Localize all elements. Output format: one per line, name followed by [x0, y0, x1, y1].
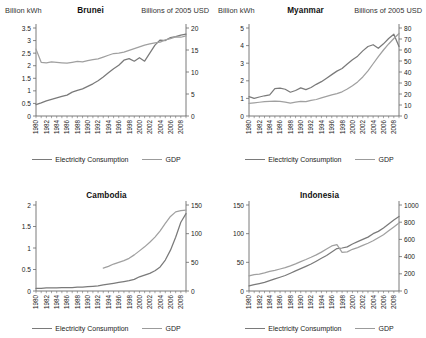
- y-tick-label: 3: [240, 60, 244, 67]
- y-tick-label: 0: [240, 288, 244, 295]
- x-tick-label: 2002: [146, 295, 153, 310]
- legend-line-swatch-icon: [245, 159, 265, 160]
- legend-label: Electricity Consumption: [268, 325, 341, 332]
- legend-line-swatch-icon: [32, 159, 52, 160]
- x-tick-label: 1980: [32, 120, 39, 135]
- y2-tick-label: 0: [404, 288, 408, 295]
- x-tick-label: 1998: [126, 295, 133, 310]
- x-tick-label: 1992: [94, 295, 101, 310]
- x-tick-label: 2008: [390, 295, 397, 310]
- series-line-gdp: [36, 36, 186, 63]
- y-tick-label: 50: [237, 259, 245, 266]
- legend-label: GDP: [378, 325, 393, 332]
- y-tick-label: 0.5: [22, 266, 31, 273]
- y2-tick-label: 50: [191, 259, 199, 266]
- y-tick-label: 150: [233, 202, 244, 209]
- y2-tick-label: 0: [191, 288, 195, 295]
- x-tick-label: 1992: [307, 120, 314, 135]
- x-tick-label: 1982: [256, 295, 263, 310]
- legend-label: Electricity Consumption: [55, 325, 128, 332]
- x-tick-label: 1986: [63, 295, 70, 310]
- legend-label: Electricity Consumption: [55, 156, 128, 163]
- y-tick-label: 0: [27, 113, 31, 120]
- x-tick-label: 1986: [276, 120, 283, 135]
- x-tick-label: 1986: [63, 120, 70, 135]
- x-tick-label: 1986: [276, 295, 283, 310]
- legend-label: Electricity Consumption: [268, 156, 341, 163]
- legend-item-gdp[interactable]: GDP: [355, 156, 393, 163]
- x-tick-label: 1984: [266, 295, 273, 310]
- y2-tick-label: 10: [404, 102, 412, 109]
- legend-item-gdp[interactable]: GDP: [142, 156, 180, 163]
- x-tick-label: 2002: [359, 295, 366, 310]
- legend-line-swatch-icon: [142, 328, 162, 329]
- x-tick-label: 1984: [53, 295, 60, 310]
- series-line-gdp: [103, 210, 186, 268]
- x-tick-label: 1982: [256, 120, 263, 135]
- legend-line-swatch-icon: [142, 159, 162, 160]
- legend-item-gdp[interactable]: GDP: [355, 325, 393, 332]
- x-tick-label: 2004: [157, 295, 164, 310]
- legend-item-electricity[interactable]: Electricity Consumption: [245, 325, 341, 332]
- x-tick-label: 2006: [380, 295, 387, 310]
- y-tick-label: 2: [27, 202, 31, 209]
- x-tick-label: 1984: [266, 120, 273, 135]
- legend-label: GDP: [165, 156, 180, 163]
- x-tick-label: 2000: [136, 120, 143, 135]
- x-tick-label: 2006: [167, 120, 174, 135]
- y2-tick-label: 50: [404, 58, 412, 65]
- legend-item-electricity[interactable]: Electricity Consumption: [245, 156, 341, 163]
- y-tick-label: 3.5: [22, 25, 31, 32]
- x-tick-label: 1996: [115, 120, 122, 135]
- y2-tick-label: 15: [191, 47, 199, 54]
- y2-tick-label: 0: [191, 113, 195, 120]
- y2-tick-label: 1000: [404, 202, 419, 209]
- chart-legend: Electricity ConsumptionGDP: [0, 152, 213, 166]
- series-line-electricity-consumption: [36, 34, 186, 105]
- x-tick-label: 1988: [74, 295, 81, 310]
- y-tick-label: 3: [27, 37, 31, 44]
- y-tick-label: 1.5: [22, 223, 31, 230]
- x-tick-label: 2004: [157, 120, 164, 135]
- legend-line-swatch-icon: [32, 328, 52, 329]
- chart-panel-indonesia: Billion kWhIndonesiaBillions of 2005 USD…: [213, 169, 426, 338]
- y-tick-label: 5: [240, 25, 244, 32]
- chart-plot: 00.511.522.533.5051015201980198219841986…: [0, 0, 213, 169]
- legend-line-swatch-icon: [355, 328, 375, 329]
- y2-tick-label: 70: [404, 36, 412, 43]
- y2-tick-label: 40: [404, 69, 412, 76]
- y2-tick-label: 10: [191, 69, 199, 76]
- y-tick-label: 1: [27, 245, 31, 252]
- x-tick-label: 1996: [328, 120, 335, 135]
- chart-panel-myanmar: Billion kWhMyanmarBillions of 2005 USD01…: [213, 0, 426, 169]
- x-tick-label: 1982: [43, 120, 50, 135]
- series-line-electricity-consumption: [249, 34, 399, 98]
- x-tick-label: 1992: [307, 295, 314, 310]
- y-tick-label: 100: [233, 230, 244, 237]
- chart-legend: Electricity ConsumptionGDP: [213, 321, 426, 335]
- x-tick-label: 1988: [287, 120, 294, 135]
- x-tick-label: 1994: [105, 295, 112, 310]
- legend-line-swatch-icon: [355, 159, 375, 160]
- chart-legend: Electricity ConsumptionGDP: [213, 152, 426, 166]
- x-tick-label: 1998: [126, 120, 133, 135]
- y2-tick-label: 150: [191, 202, 202, 209]
- legend-item-electricity[interactable]: Electricity Consumption: [32, 156, 128, 163]
- legend-item-gdp[interactable]: GDP: [142, 325, 180, 332]
- y-tick-label: 1: [240, 95, 244, 102]
- x-tick-label: 2008: [390, 120, 397, 135]
- x-tick-label: 2000: [349, 120, 356, 135]
- legend-item-electricity[interactable]: Electricity Consumption: [32, 325, 128, 332]
- legend-label: GDP: [378, 156, 393, 163]
- x-tick-label: 1990: [297, 295, 304, 310]
- y2-tick-label: 600: [404, 236, 415, 243]
- chart-plot: 0501001500200400600800100019801982198419…: [213, 169, 426, 338]
- series-line-gdp: [249, 223, 399, 276]
- x-tick-label: 1996: [115, 295, 122, 310]
- x-tick-label: 1990: [84, 120, 91, 135]
- x-tick-label: 1988: [287, 295, 294, 310]
- x-tick-label: 2000: [136, 295, 143, 310]
- x-tick-label: 2008: [177, 120, 184, 135]
- legend-line-swatch-icon: [245, 328, 265, 329]
- y2-tick-label: 200: [404, 270, 415, 277]
